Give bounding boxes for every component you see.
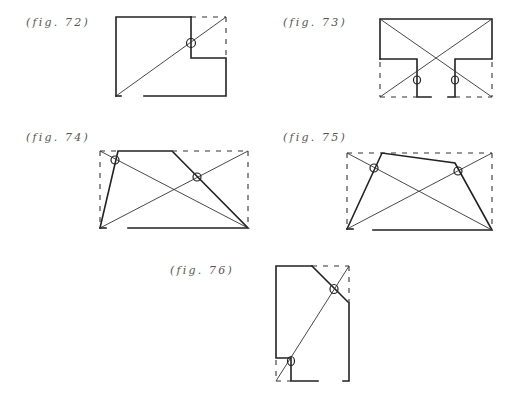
fig-74-diagram	[100, 151, 248, 228]
figure-canvas	[0, 0, 523, 398]
fig-72-diagram	[116, 17, 226, 96]
fig-76-diagram	[276, 266, 349, 381]
fig-73-diagram	[380, 19, 492, 97]
fig-75-diagram	[347, 153, 492, 230]
